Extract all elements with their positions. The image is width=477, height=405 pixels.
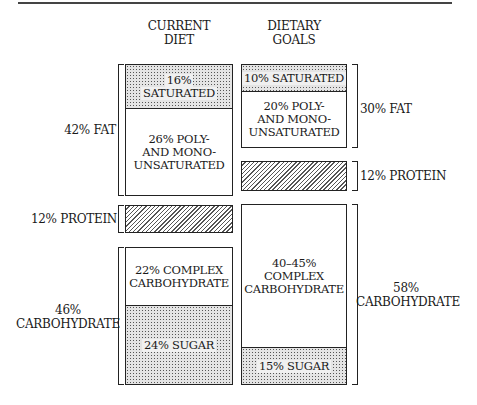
goals-complex-segment: 40–45% COMPLEX CARBOHYDRATE — [242, 205, 346, 348]
goals-fat-box: 10% SATURATED 20% POLY- AND MONO- UNSATU… — [241, 64, 347, 148]
segment-label: 10% SATURATED — [242, 72, 346, 85]
segment-label: 22% COMPLEX — [135, 264, 223, 277]
goals-fat-label: 30% FAT — [360, 102, 412, 116]
current-carb-box: 22% COMPLEX CARBOHYDRATE 24% SUGAR — [125, 247, 233, 385]
segment-label: COMPLEX — [264, 270, 324, 283]
goals-sugar-segment: 15% SUGAR — [242, 348, 346, 384]
goals-saturated-segment: 10% SATURATED — [242, 65, 346, 92]
title-line: DIET — [125, 33, 233, 47]
segment-label: CARBOHYDRATE — [244, 283, 344, 296]
current-complex-segment: 22% COMPLEX CARBOHYDRATE — [126, 248, 232, 306]
segment-label: 24% SUGAR — [142, 339, 216, 352]
goals-unsaturated-segment: 20% POLY- AND MONO- UNSATURATED — [242, 92, 346, 147]
segment-label: 40–45% — [272, 257, 316, 270]
label-line: CARBOHYDRATE — [16, 317, 120, 331]
current-fat-box: 16% SATURATED 26% POLY- AND MONO- UNSATU… — [125, 64, 233, 196]
column-title-current: CURRENT DIET — [125, 19, 233, 47]
label-line: 46% — [16, 303, 120, 317]
current-saturated-segment: 16% SATURATED — [126, 65, 232, 109]
current-protein-box — [125, 205, 233, 233]
label-line: CARBOHYDRATE — [356, 295, 456, 309]
current-protein-label: 12% PROTEIN — [30, 212, 118, 226]
current-unsaturated-segment: 26% POLY- AND MONO- UNSATURATED — [126, 109, 232, 195]
goals-carb-label: 58% CARBOHYDRATE — [356, 281, 456, 309]
current-protein-bracket — [118, 205, 124, 233]
segment-label: SATURATED — [141, 87, 217, 100]
segment-label: CARBOHYDRATE — [129, 277, 229, 290]
top-rule — [18, 2, 452, 4]
segment-label: UNSATURATED — [249, 126, 340, 139]
title-line: CURRENT — [125, 19, 233, 33]
label-line: 58% — [356, 281, 456, 295]
goals-protein-label: 12% PROTEIN — [360, 169, 446, 183]
title-line: DIETARY — [241, 19, 347, 33]
segment-label: 16% — [165, 74, 194, 87]
current-sugar-segment: 24% SUGAR — [126, 306, 232, 384]
title-line: GOALS — [241, 33, 347, 47]
goals-protein-box — [241, 161, 347, 191]
goals-carb-box: 40–45% COMPLEX CARBOHYDRATE 15% SUGAR — [241, 204, 347, 385]
segment-label: 26% POLY- — [149, 133, 210, 146]
current-fat-label: 42% FAT — [62, 123, 118, 137]
segment-label: AND MONO- — [142, 146, 216, 159]
column-title-goals: DIETARY GOALS — [241, 19, 347, 47]
segment-label: 15% SUGAR — [257, 360, 331, 373]
goals-fat-bracket — [352, 64, 358, 148]
segment-label: UNSATURATED — [134, 159, 225, 172]
current-carb-label: 46% CARBOHYDRATE — [16, 303, 120, 331]
goals-protein-bracket — [352, 161, 358, 191]
current-fat-bracket — [118, 64, 124, 196]
